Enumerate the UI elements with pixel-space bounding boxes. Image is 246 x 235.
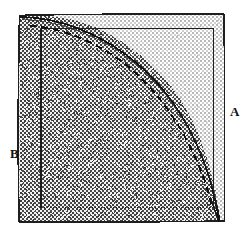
geometry-diagram (0, 0, 246, 235)
region-label-a: A (230, 105, 239, 118)
region-label-b: B (10, 147, 19, 160)
diagram-canvas (0, 0, 246, 235)
